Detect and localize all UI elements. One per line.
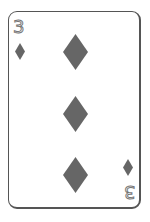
diamond-icon: [63, 34, 88, 70]
rank-index-top-left: 3: [13, 19, 24, 35]
diamond-icon: [63, 96, 88, 132]
playing-card-three-of-diamonds[interactable]: 3 3: [8, 11, 141, 209]
diamond-icon: [123, 159, 133, 176]
diamond-icon: [63, 157, 88, 193]
diamond-icon: [15, 43, 25, 60]
rank-index-bottom-right: 3: [124, 184, 135, 200]
